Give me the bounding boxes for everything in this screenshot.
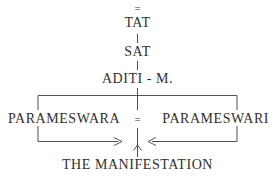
arrowhead-left xyxy=(148,138,156,146)
arrowhead-right xyxy=(114,138,122,146)
node-sat: SAT xyxy=(0,45,275,59)
bracket-upper-pair xyxy=(38,96,237,111)
bracket-lower-pair xyxy=(38,126,118,142)
node-parameswari: PARAMESWARI xyxy=(162,112,269,126)
node-aditi: ADITI - M. xyxy=(0,72,275,86)
node-the-manifestation: THE MANIFESTATION xyxy=(0,158,275,172)
diagram-canvas: = TAT SAT ADITI - M. PARAMESWARA = PARAM… xyxy=(0,0,275,176)
arrowhead-up xyxy=(134,145,142,151)
bracket-lower-pair-right xyxy=(152,126,237,142)
equals-sign-top: = xyxy=(0,3,275,14)
node-tat: TAT xyxy=(0,16,275,30)
